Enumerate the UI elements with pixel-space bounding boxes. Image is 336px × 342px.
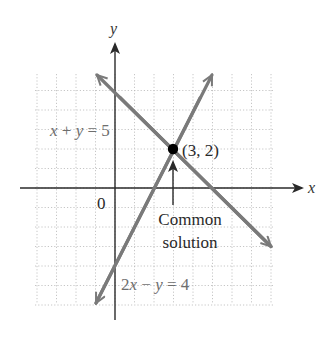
system-of-equations-graph: x y 0 x + y = 5 2x − y = 4 (3, 2) Common… xyxy=(0,0,336,342)
y-axis-label: y xyxy=(108,20,118,38)
label-x-plus-y-eq-5: x + y = 5 xyxy=(49,121,110,140)
x-axis-label: x xyxy=(307,179,315,196)
annotation-solution: solution xyxy=(163,233,218,252)
line-2x-minus-y-eq-4-tail xyxy=(96,98,200,303)
origin-label: 0 xyxy=(97,194,106,213)
label-2x-minus-y-eq-4: 2x − y = 4 xyxy=(121,275,190,294)
intersection-point xyxy=(168,144,178,154)
annotation-common: Common xyxy=(158,210,222,229)
point-label: (3, 2) xyxy=(182,141,219,160)
